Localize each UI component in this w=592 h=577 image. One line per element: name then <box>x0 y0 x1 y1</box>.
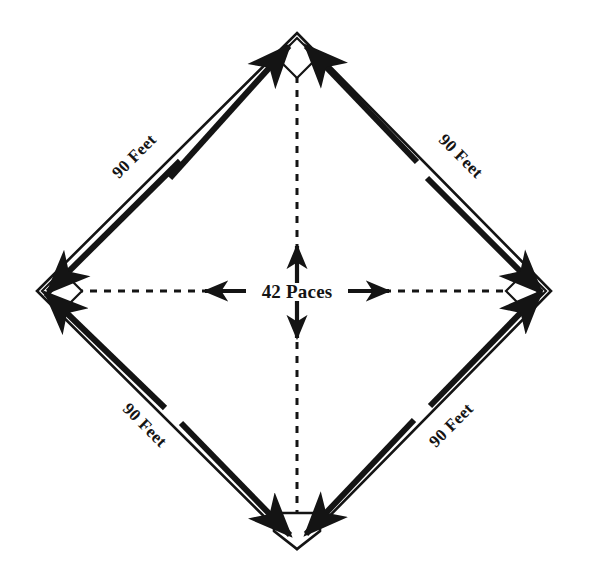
baseline-arrow-second-to-third <box>48 161 180 292</box>
baseline-arrow-third-to-second <box>170 46 289 178</box>
second-base-marker <box>277 38 317 78</box>
diagram-canvas: 90 Feet 90 Feet 90 Feet 90 Feet 42 Paces <box>0 0 592 577</box>
baseball-diamond-diagram: 90 Feet 90 Feet 90 Feet 90 Feet 42 Paces <box>0 0 592 577</box>
baseline-arrows-bottom-right <box>306 292 541 534</box>
baseline-arrow-home-to-third <box>46 293 165 408</box>
baseline-arrow-first-to-home <box>306 420 414 534</box>
baseline-label-top-left: 90 Feet <box>108 130 160 182</box>
baseline-arrow-second-to-first <box>427 178 541 292</box>
baseline-arrows-top-left <box>48 46 289 292</box>
center-measure-label: 42 Paces <box>262 281 333 302</box>
home-plate-marker <box>274 513 320 549</box>
baseline-arrows-top-right <box>306 46 541 292</box>
baseline-label-top-right: 90 Feet <box>435 130 487 182</box>
center-measure: 42 Paces <box>205 246 389 338</box>
baseline-arrow-third-to-home <box>181 423 290 535</box>
baseline-arrow-home-to-first <box>430 292 541 406</box>
baseline-arrows-bottom-left <box>46 293 290 535</box>
baseline-arrow-first-to-second <box>306 46 417 162</box>
